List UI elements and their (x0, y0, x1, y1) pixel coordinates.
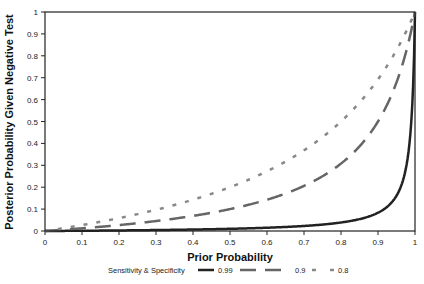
x-tick-label: 0.4 (187, 238, 199, 247)
series-line-0.8 (45, 12, 415, 231)
x-tick-label: 0.1 (76, 238, 88, 247)
x-tick-label: 0.9 (372, 238, 384, 247)
y-tick-label: 0.6 (27, 96, 39, 105)
y-tick-label: 0.2 (27, 183, 39, 192)
y-tick-label: 0.8 (27, 52, 39, 61)
x-tick-label: 0.2 (113, 238, 125, 247)
x-tick-label: 0.7 (298, 238, 310, 247)
x-tick-label: 0.5 (224, 238, 236, 247)
y-tick-label: 1 (34, 8, 39, 17)
legend-title: Sensitivity & Specificity (108, 266, 185, 275)
chart: 00.10.20.30.40.50.60.70.80.91 00.10.20.3… (0, 0, 424, 284)
y-tick-label: 0 (34, 227, 39, 236)
y-tick-label: 0.1 (27, 205, 39, 214)
legend: Sensitivity & Specificity 0.99 0.9 0.8 (108, 266, 348, 275)
series-line-0.99 (45, 12, 415, 231)
x-tick-label: 0.3 (150, 238, 162, 247)
y-tick-label: 0.4 (27, 139, 39, 148)
x-tick-label: 0 (43, 238, 48, 247)
y-tick-label: 0.7 (27, 74, 39, 83)
data-lines (45, 12, 415, 231)
y-tick-label: 0.9 (27, 30, 39, 39)
x-axis-label: Prior Probability (187, 251, 273, 263)
legend-label-0.9: 0.9 (295, 266, 305, 275)
legend-label-0.8: 0.8 (338, 266, 348, 275)
x-axis-ticks: 00.10.20.30.40.50.60.70.80.91 (43, 231, 418, 247)
y-axis-label: Posterior Probability Given Negative Tes… (3, 14, 15, 230)
y-tick-label: 0.3 (27, 161, 39, 170)
x-tick-label: 0.6 (261, 238, 273, 247)
legend-label-0.99: 0.99 (218, 266, 233, 275)
plot-frame (45, 12, 415, 231)
x-tick-label: 1 (413, 238, 418, 247)
y-axis-ticks: 00.10.20.30.40.50.60.70.80.91 (27, 8, 45, 236)
y-tick-label: 0.5 (27, 118, 39, 127)
x-tick-label: 0.8 (335, 238, 347, 247)
series-line-0.9 (45, 12, 415, 231)
